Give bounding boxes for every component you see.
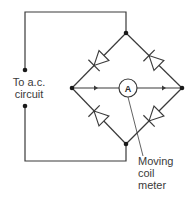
meter-label-line1: Moving [138,155,173,167]
terminal-bottom [23,104,28,109]
current-arrow-icon [162,86,166,91]
ammeter-symbol: A [125,84,132,94]
node-top [124,31,129,36]
bottom-supply-wire [25,106,126,161]
meter-label-line2: coil [138,167,155,179]
bridge-rectifier-diagram: A To a.c. circuit Moving coil meter [0,0,193,199]
meter-leader-line [128,97,143,156]
terminal-top [23,68,28,73]
meter-label-line3: meter [138,179,166,191]
source-label-line2: circuit [15,88,44,100]
source-label-line1: To a.c. [13,76,45,88]
node-bottom [124,142,129,147]
node-right [180,86,185,91]
node-left [70,86,75,91]
ammeter: A [119,79,137,97]
top-supply-wire [25,12,126,70]
current-arrow-icon [94,86,98,91]
